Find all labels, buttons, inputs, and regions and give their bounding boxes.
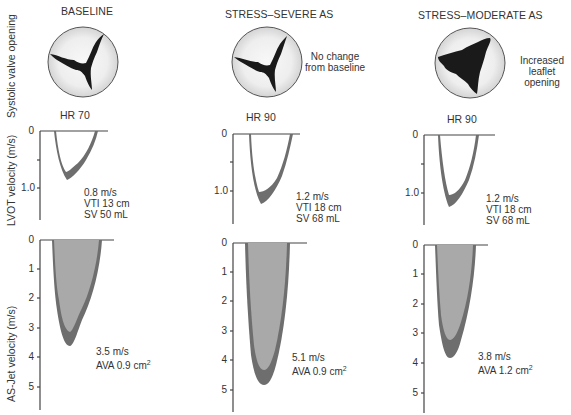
jet-ava-value: AVA 1.2 cm — [478, 365, 529, 376]
jet-envelope-baseline — [52, 240, 102, 346]
lvot-tick-1: 1.0 — [208, 185, 228, 196]
ava-unit-sup: 2 — [529, 364, 533, 371]
valve-note-line: No change — [305, 51, 365, 62]
lvot-envelope-severe — [249, 134, 293, 204]
hr-label-moderate: HR 90 — [447, 113, 477, 125]
lvot-tick-0: 0 — [213, 128, 227, 139]
lvot-sv: SV 68 mL — [486, 215, 532, 226]
ava-unit-sup: 2 — [147, 359, 151, 366]
jet-ava: AVA 0.9 cm2 — [292, 363, 347, 377]
lvot-envelope-baseline — [54, 131, 98, 180]
lvot-tick-1: 1.0 — [15, 182, 35, 193]
jet-tick: 3 — [404, 327, 418, 338]
jet-tick: 2 — [20, 292, 34, 303]
lvot-peak: 1.2 m/s — [296, 191, 342, 202]
hr-label-severe: HR 90 — [246, 111, 276, 123]
jet-tick: 5 — [20, 381, 34, 392]
lvot-peak: 0.8 m/s — [84, 187, 130, 198]
lvot-vti: VTI 18 cm — [486, 204, 532, 215]
lvot-measure-moderate: 1.2 m/s VTI 18 cm SV 68 mL — [486, 193, 532, 226]
ava-unit-sup: 2 — [343, 365, 347, 372]
jet-envelope-moderate — [435, 245, 476, 358]
jet-tick: 1 — [213, 266, 227, 277]
jet-measure-moderate: 3.8 m/s AVA 1.2 cm2 — [478, 351, 533, 376]
jet-measure-severe: 5.1 m/s AVA 0.9 cm2 — [292, 352, 347, 377]
valve-note-line: leaflet opening — [513, 66, 571, 88]
jet-tick: 0 — [213, 237, 227, 248]
jet-peak: 3.8 m/s — [478, 351, 533, 362]
lvot-tick-1: 1.0 — [399, 187, 419, 198]
jet-peak: 3.5 m/s — [96, 346, 151, 357]
jet-tick: 1 — [20, 263, 34, 274]
valve-note-moderate: Increased leaflet opening — [513, 55, 571, 88]
jet-tick: 4 — [20, 351, 34, 362]
lvot-peak: 1.2 m/s — [486, 193, 532, 204]
valve-note-severe: No change from baseline — [305, 51, 365, 73]
valve-note-line: from baseline — [305, 62, 365, 73]
jet-tick: 5 — [213, 384, 227, 395]
jet-tick: 4 — [213, 354, 227, 365]
valve-moderate — [435, 28, 505, 98]
jet-ava-value: AVA 0.9 cm — [96, 360, 147, 371]
lvot-vti: VTI 18 cm — [296, 202, 342, 213]
valve-severe — [232, 27, 302, 97]
lvot-envelope-moderate — [438, 135, 479, 207]
valve-note-line: Increased — [513, 55, 571, 66]
jet-peak: 5.1 m/s — [292, 352, 347, 363]
jet-measure-baseline: 3.5 m/s AVA 0.9 cm2 — [96, 346, 151, 371]
hr-label-baseline: HR 70 — [60, 109, 90, 121]
jet-ava-value: AVA 0.9 cm — [292, 366, 343, 377]
lvot-vti: VTI 13 cm — [84, 198, 130, 209]
valve-baseline — [48, 27, 118, 97]
jet-tick: 3 — [213, 325, 227, 336]
jet-tick: 2 — [404, 298, 418, 309]
jet-tick: 2 — [213, 295, 227, 306]
jet-tick: 5 — [404, 387, 418, 398]
lvot-tick-0: 0 — [20, 125, 34, 136]
jet-tick: 0 — [20, 234, 34, 245]
column-title-baseline: BASELINE — [61, 5, 113, 17]
row-label-jet: AS-Jet velocity (m/s) — [5, 306, 17, 402]
lvot-sv: SV 68 mL — [296, 213, 342, 224]
jet-tick: 3 — [20, 322, 34, 333]
jet-tick: 1 — [404, 268, 418, 279]
column-title-moderate: STRESS–MODERATE AS — [418, 9, 543, 21]
jet-tick: 0 — [404, 239, 418, 250]
lvot-tick-0: 0 — [404, 129, 418, 140]
row-label-lvot: LVOT velocity (m/s) — [5, 135, 17, 226]
column-title-severe: STRESS–SEVERE AS — [225, 8, 333, 20]
row-label-valve: Systolic valve opening — [5, 14, 17, 118]
jet-ava: AVA 0.9 cm2 — [96, 357, 151, 371]
lvot-measure-baseline: 0.8 m/s VTI 13 cm SV 50 mL — [84, 187, 130, 220]
jet-ava: AVA 1.2 cm2 — [478, 362, 533, 376]
jet-tick: 4 — [404, 357, 418, 368]
lvot-sv: SV 50 mL — [84, 209, 130, 220]
jet-envelope-severe — [245, 243, 290, 385]
lvot-measure-severe: 1.2 m/s VTI 18 cm SV 68 mL — [296, 191, 342, 224]
